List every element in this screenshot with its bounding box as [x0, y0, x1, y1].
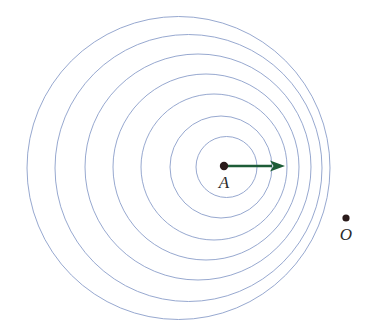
wavefront-circles [27, 17, 330, 320]
wavefront-circle-7 [27, 17, 330, 320]
figure-canvas: AO [0, 0, 374, 335]
source-point [220, 162, 228, 170]
source-label: A [218, 173, 230, 192]
wavefront-circle-6 [55, 35, 322, 302]
observer-point [342, 214, 349, 221]
velocity-arrow-group [224, 161, 285, 172]
observer-label: O [340, 225, 352, 244]
wavefront-diagram: AO [0, 0, 374, 335]
